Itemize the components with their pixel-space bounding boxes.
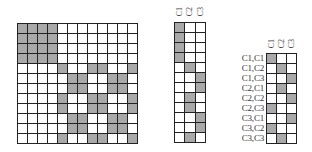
- filled-cell: [48, 24, 58, 34]
- empty-cell: [98, 114, 108, 124]
- empty-cell: [287, 64, 297, 74]
- empty-cell: [78, 34, 88, 44]
- empty-cell: [18, 114, 28, 124]
- filled-cell: [38, 24, 48, 34]
- empty-cell: [48, 124, 58, 134]
- empty-cell: [38, 134, 48, 144]
- filled-cell: [28, 34, 38, 44]
- empty-cell: [58, 24, 68, 34]
- empty-cell: [28, 74, 38, 84]
- filled-cell: [38, 44, 48, 54]
- empty-cell: [18, 124, 28, 134]
- empty-cell: [128, 34, 138, 44]
- empty-cell: [18, 64, 28, 74]
- empty-cell: [128, 114, 138, 124]
- empty-cell: [267, 114, 277, 124]
- filled-cell: [68, 84, 78, 94]
- empty-cell: [58, 34, 68, 44]
- empty-cell: [277, 124, 287, 134]
- empty-cell: [78, 54, 88, 64]
- empty-cell: [185, 123, 195, 133]
- filled-cell: [48, 54, 58, 64]
- empty-cell: [68, 44, 78, 54]
- filled-cell: [78, 84, 88, 94]
- filled-cell: [58, 94, 68, 104]
- empty-cell: [118, 44, 128, 54]
- filled-cell: [267, 54, 277, 64]
- filled-cell: [78, 74, 88, 84]
- filled-cell: [58, 64, 68, 74]
- filled-cell: [38, 54, 48, 64]
- empty-cell: [68, 94, 78, 104]
- filled-cell: [118, 124, 128, 134]
- empty-cell: [88, 84, 98, 94]
- filled-cell: [18, 44, 28, 54]
- empty-cell: [118, 24, 128, 34]
- filled-cell: [128, 104, 138, 114]
- empty-cell: [277, 54, 287, 64]
- empty-cell: [108, 104, 118, 114]
- middle-matrix: [174, 22, 206, 143]
- column-header: C2: [185, 7, 195, 16]
- empty-cell: [48, 74, 58, 84]
- empty-cell: [108, 64, 118, 74]
- empty-cell: [196, 33, 206, 43]
- empty-cell: [128, 84, 138, 94]
- filled-cell: [18, 34, 28, 44]
- empty-cell: [78, 104, 88, 114]
- empty-cell: [118, 104, 128, 114]
- empty-cell: [175, 83, 185, 93]
- filled-cell: [108, 124, 118, 134]
- empty-cell: [287, 134, 297, 144]
- empty-cell: [108, 134, 118, 144]
- empty-cell: [88, 34, 98, 44]
- empty-cell: [108, 54, 118, 64]
- filled-cell: [88, 134, 98, 144]
- empty-cell: [28, 114, 38, 124]
- empty-cell: [118, 134, 128, 144]
- empty-cell: [18, 84, 28, 94]
- filled-cell: [277, 84, 287, 94]
- right-matrix: [266, 53, 297, 144]
- row-label: C1,C3: [224, 73, 264, 83]
- empty-cell: [58, 84, 68, 94]
- filled-cell: [98, 94, 108, 104]
- empty-cell: [277, 104, 287, 114]
- filled-cell: [108, 84, 118, 94]
- empty-cell: [175, 123, 185, 133]
- empty-cell: [88, 124, 98, 134]
- filled-cell: [108, 114, 118, 124]
- empty-cell: [108, 24, 118, 34]
- row-label: C2,C1: [224, 83, 264, 93]
- filled-cell: [108, 74, 118, 84]
- filled-cell: [68, 124, 78, 134]
- empty-cell: [88, 54, 98, 64]
- empty-cell: [88, 114, 98, 124]
- filled-cell: [118, 74, 128, 84]
- row-label: C3,C1: [224, 113, 264, 123]
- filled-cell: [48, 44, 58, 54]
- empty-cell: [277, 94, 287, 104]
- empty-cell: [88, 74, 98, 84]
- empty-cell: [78, 24, 88, 34]
- empty-cell: [267, 84, 277, 94]
- row-label: C2,C2: [224, 93, 264, 103]
- row-label: C1,C1: [224, 53, 264, 63]
- empty-cell: [185, 53, 195, 63]
- filled-cell: [28, 44, 38, 54]
- filled-cell: [185, 133, 195, 143]
- empty-cell: [175, 93, 185, 103]
- empty-cell: [68, 64, 78, 74]
- empty-cell: [175, 113, 185, 123]
- empty-cell: [196, 103, 206, 113]
- empty-cell: [267, 74, 277, 84]
- empty-cell: [98, 84, 108, 94]
- filled-cell: [175, 33, 185, 43]
- empty-cell: [38, 124, 48, 134]
- column-header: C1: [175, 7, 185, 16]
- empty-cell: [175, 73, 185, 83]
- filled-cell: [196, 83, 206, 93]
- empty-cell: [196, 53, 206, 63]
- empty-cell: [185, 23, 195, 33]
- empty-cell: [277, 114, 287, 124]
